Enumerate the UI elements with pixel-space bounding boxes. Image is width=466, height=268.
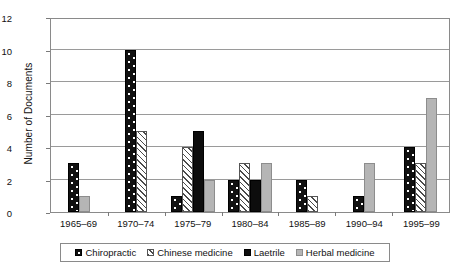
bar xyxy=(261,163,272,212)
bar-group xyxy=(165,19,222,212)
bar xyxy=(239,163,250,212)
bar-group xyxy=(278,19,335,212)
x-axis-tick-label: 1995–99 xyxy=(393,218,450,229)
bar xyxy=(307,196,318,212)
bar xyxy=(136,131,147,212)
plot-area xyxy=(50,18,450,213)
legend-item: Laetrile xyxy=(244,247,285,258)
x-axis-tick-mark xyxy=(278,212,279,216)
legend-label: Herbal medicine xyxy=(306,247,375,258)
y-axis-tick-label: 12 xyxy=(0,13,12,24)
x-axis-tick-labels: 1965–691970–741975–791980–841985–891990–… xyxy=(50,218,450,229)
bar xyxy=(125,50,136,213)
bar xyxy=(404,147,415,212)
legend-item: Herbal medicine xyxy=(296,247,375,258)
legend-swatch-icon xyxy=(75,249,82,256)
bar xyxy=(204,180,215,213)
bar xyxy=(182,147,193,212)
x-axis-tick-mark xyxy=(108,212,109,216)
bar xyxy=(353,196,364,212)
bar xyxy=(296,180,307,213)
x-axis-tick-mark xyxy=(392,212,393,216)
bar-group xyxy=(108,19,165,212)
bar xyxy=(79,196,90,212)
x-axis-tick-label: 1985–89 xyxy=(279,218,336,229)
y-axis-tick-mark xyxy=(46,213,50,214)
x-axis-tick-label: 1975–79 xyxy=(164,218,221,229)
legend-label: Chiropractic xyxy=(85,247,136,258)
y-axis-tick-label: 2 xyxy=(0,175,12,186)
bar xyxy=(415,163,426,212)
legend-swatch-icon xyxy=(147,249,154,256)
bar-group xyxy=(222,19,279,212)
bar xyxy=(228,180,239,213)
chart-legend: ChiropracticChinese medicineLaetrileHerb… xyxy=(60,243,390,262)
legend-label: Laetrile xyxy=(254,247,285,258)
x-axis-tick-label: 1980–84 xyxy=(221,218,278,229)
x-axis-tick-mark xyxy=(222,212,223,216)
bar xyxy=(193,131,204,212)
y-axis-tick-label: 10 xyxy=(0,45,12,56)
y-axis-tick-label: 6 xyxy=(0,110,12,121)
bar-group xyxy=(335,19,392,212)
chart-figure: Number of Documents 024681012 1965–69197… xyxy=(0,0,466,268)
bar-group xyxy=(392,19,449,212)
bar xyxy=(426,98,437,212)
y-axis-title: Number of Documents xyxy=(23,34,34,194)
bar xyxy=(171,196,182,212)
legend-label: Chinese medicine xyxy=(157,247,233,258)
bar xyxy=(364,163,375,212)
y-axis-tick-label: 0 xyxy=(0,208,12,219)
bar-group xyxy=(51,19,108,212)
x-axis-tick-label: 1970–74 xyxy=(107,218,164,229)
legend-swatch-icon xyxy=(296,249,303,256)
x-axis-tick-mark xyxy=(335,212,336,216)
legend-swatch-icon xyxy=(244,249,251,256)
x-axis-tick-label: 1990–94 xyxy=(336,218,393,229)
y-axis-tick-label: 4 xyxy=(0,143,12,154)
x-axis-tick-label: 1965–69 xyxy=(50,218,107,229)
legend-item: Chiropractic xyxy=(75,247,136,258)
legend-item: Chinese medicine xyxy=(147,247,233,258)
bar xyxy=(250,180,261,213)
bar xyxy=(68,163,79,212)
x-axis-tick-mark xyxy=(165,212,166,216)
bar-groups xyxy=(51,19,449,212)
y-axis-tick-label: 8 xyxy=(0,78,12,89)
